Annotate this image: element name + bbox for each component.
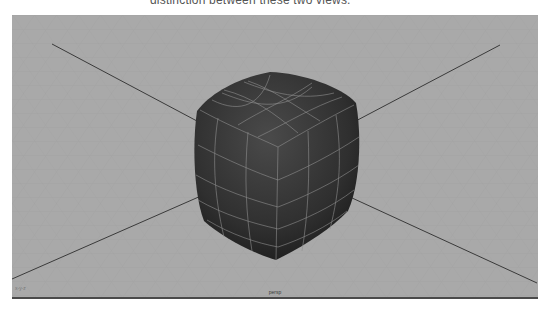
- perspective-viewport[interactable]: x-y-z persp: [12, 15, 538, 299]
- viewport-scene: [12, 15, 538, 297]
- camera-name-label: persp: [269, 289, 282, 295]
- caption-text: distinction between these two views.: [150, 0, 351, 7]
- view-axes-indicator: x-y-z: [15, 285, 26, 291]
